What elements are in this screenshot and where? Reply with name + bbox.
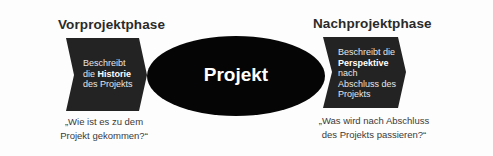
post-project-question: „Was wird nach Abschluss des Projekts pa…: [318, 114, 430, 142]
question-line: des Projekts passieren?“: [318, 128, 430, 142]
historie-highlight: Historie: [98, 69, 132, 79]
description-line: des Projekts: [83, 79, 133, 90]
pre-project-question: „Wie ist es zu dem Projekt gekommen?“: [52, 115, 156, 143]
description-text: die: [83, 69, 98, 79]
perspektive-highlight: Perspektive: [338, 58, 389, 68]
description-line: nach: [338, 68, 396, 79]
description-line: die Historie: [83, 69, 133, 80]
post-project-phase-title: Nachprojektphase: [313, 16, 432, 31]
description-line: Beschreibt die: [338, 47, 396, 58]
description-line: Abschluss des: [338, 79, 396, 90]
description-line: Perspektive: [338, 58, 396, 69]
question-line: Projekt gekommen?“: [52, 129, 156, 143]
description-line: Projekts: [338, 89, 396, 100]
question-line: „Wie ist es zu dem: [52, 115, 156, 129]
question-line: „Was wird nach Abschluss: [318, 114, 430, 128]
pre-project-phase-title: Vorprojektphase: [58, 17, 165, 32]
project-label: Projekt: [186, 64, 286, 86]
description-line: Beschreibt: [83, 58, 133, 69]
post-project-description: Beschreibt die Perspektive nach Abschlus…: [338, 47, 396, 100]
pre-project-description: Beschreibt die Historie des Projekts: [83, 58, 133, 90]
